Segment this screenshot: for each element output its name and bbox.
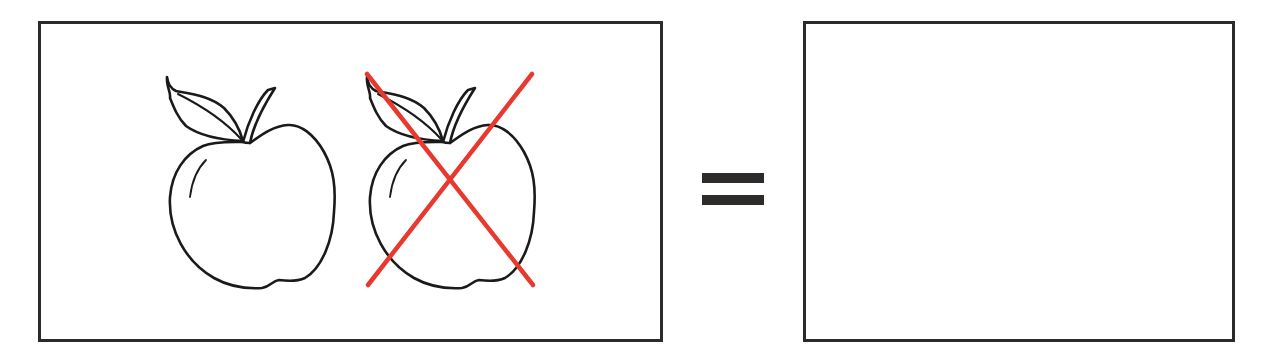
answer-box: empty answer box [803,21,1235,342]
crossed-apple-label: apple (crossed out) [0,0,1,1]
apple-label: apple [0,0,1,1]
equals-sign-label: = [0,0,1,1]
answer-box-label: empty answer box [806,24,807,25]
equals-sign-bottom-bar [702,195,764,205]
equation-left-panel [38,21,663,342]
equals-sign-top-bar [702,173,764,183]
